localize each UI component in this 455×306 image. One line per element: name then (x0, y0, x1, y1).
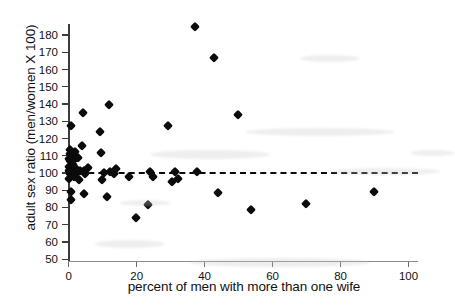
data-point (163, 121, 173, 131)
data-point (95, 127, 105, 137)
data-point (102, 192, 112, 202)
scan-artifact (410, 150, 455, 156)
x-tick-0: 0 (68, 262, 69, 267)
scan-artifact (150, 150, 270, 159)
y-tick-label-170: 170 (39, 46, 58, 58)
y-tick-label-50: 50 (45, 253, 58, 265)
data-point (96, 148, 106, 158)
scan-artifact (120, 200, 170, 206)
y-tick-60: 60 (62, 241, 68, 242)
y-tick-label-180: 180 (39, 29, 58, 41)
data-point (190, 21, 200, 31)
x-tick-label-60: 60 (266, 270, 279, 282)
scan-artifact (245, 128, 395, 136)
scan-artifact (190, 258, 370, 267)
y-tick-label-100: 100 (39, 167, 58, 179)
y-tick-label-70: 70 (45, 219, 58, 231)
y-tick-label-80: 80 (45, 201, 58, 213)
y-tick-180: 180 (62, 34, 68, 35)
y-tick-label-130: 130 (39, 115, 58, 127)
data-point (209, 52, 219, 62)
y-tick-50: 50 (62, 259, 68, 260)
y-tick-label-140: 140 (39, 98, 58, 110)
data-point (246, 205, 256, 215)
scan-artifact (300, 55, 360, 62)
x-tick-label-100: 100 (399, 270, 418, 282)
x-tick-label-0: 0 (65, 270, 71, 282)
y-tick-160: 160 (62, 69, 68, 70)
y-tick-label-150: 150 (39, 81, 58, 93)
data-point (369, 187, 379, 197)
x-tick-label-20: 20 (130, 270, 143, 282)
scan-artifact (330, 168, 440, 175)
data-point (131, 213, 141, 223)
y-tick-label-160: 160 (39, 64, 58, 76)
y-tick-label-110: 110 (40, 150, 58, 162)
plot-area: 5060708090100110120130140150160170180 02… (68, 24, 418, 262)
x-tick-label-40: 40 (198, 270, 211, 282)
y-axis-title: adult sex ratio (men/women X 100) (23, 3, 38, 253)
data-point (233, 109, 243, 119)
x-tick-20: 20 (136, 262, 137, 267)
y-tick-label-120: 120 (39, 133, 58, 145)
x-tick-label-80: 80 (334, 270, 347, 282)
x-tick-100: 100 (408, 262, 409, 267)
scan-artifact (95, 240, 165, 248)
y-tick-80: 80 (62, 207, 68, 208)
y-tick-70: 70 (62, 224, 68, 225)
y-tick-170: 170 (62, 52, 68, 53)
y-tick-140: 140 (62, 103, 68, 104)
x-axis-title: percent of men with more than one wife (68, 279, 420, 294)
y-tick-label-60: 60 (45, 236, 58, 248)
data-point (301, 198, 311, 208)
y-axis-line (68, 24, 70, 262)
data-point (104, 100, 114, 110)
data-point (79, 189, 89, 199)
data-point (212, 188, 222, 198)
y-tick-130: 130 (62, 121, 68, 122)
y-tick-150: 150 (62, 86, 68, 87)
y-tick-label-90: 90 (45, 184, 58, 196)
data-point (78, 108, 88, 118)
data-point (192, 167, 202, 177)
y-tick-120: 120 (62, 138, 68, 139)
